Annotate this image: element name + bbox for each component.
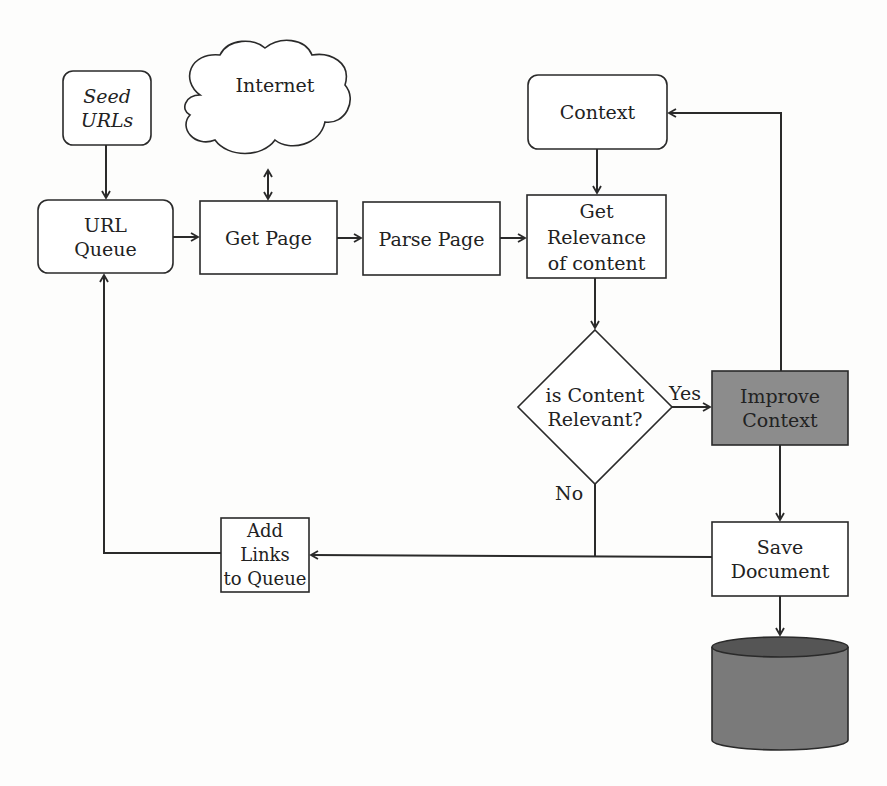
no-edge-label: No (555, 482, 583, 504)
url-queue-line1: URL (84, 213, 127, 237)
seed-urls-line1: Seed (83, 84, 131, 108)
get-relevance-line1: Get (579, 198, 613, 224)
context-node: Context (528, 75, 667, 149)
url-queue-node: URL Queue (38, 200, 173, 273)
get-page-node: Get Page (200, 201, 337, 274)
decision-line2: Relevant? (548, 407, 643, 431)
add-links-line2: to Queue (223, 567, 306, 591)
database-cylinder-shape (712, 647, 848, 750)
get-relevance-line3: of content (548, 250, 646, 276)
add-links-node: Add Links to Queue (221, 518, 309, 592)
get-page-label: Get Page (225, 226, 312, 250)
save-document-line1: Save (757, 535, 803, 559)
seed-urls-line2: URLs (81, 108, 134, 132)
get-relevance-line2: Relevance (547, 224, 646, 250)
seed-urls-node: Seed URLs (63, 71, 151, 145)
yes-edge-label: Yes (669, 382, 701, 404)
decision-line1: is Content (546, 383, 645, 407)
decision-node: is Content Relevant? (518, 370, 672, 444)
save-document-node: Save Document (712, 522, 848, 596)
internet-label: Internet (236, 73, 315, 97)
save-document-line2: Document (731, 559, 830, 583)
internet-node: Internet (225, 70, 325, 100)
parse-page-node: Parse Page (363, 202, 500, 275)
url-queue-line2: Queue (74, 237, 137, 261)
improve-context-line2: Context (742, 408, 817, 432)
database-top-shape (712, 637, 848, 657)
improve-context-line1: Improve (740, 384, 820, 408)
improve-context-node: Improve Context (712, 371, 848, 445)
parse-page-label: Parse Page (378, 227, 484, 251)
context-label: Context (560, 100, 635, 124)
get-relevance-node: Get Relevance of content (527, 195, 666, 278)
add-links-line1: Add Links (221, 519, 309, 567)
